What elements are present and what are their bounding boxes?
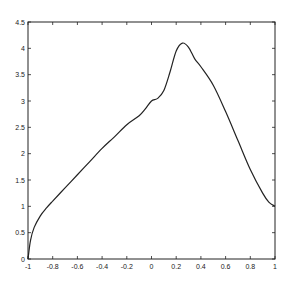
x-tick-label: -0.4 — [96, 263, 108, 270]
y-tick-label: 4.5 — [15, 19, 25, 26]
x-tick-label: -0.6 — [71, 263, 83, 270]
y-tick-label: 1.5 — [15, 177, 25, 184]
x-tick-label: 0.6 — [221, 263, 231, 270]
y-tick-label: 2 — [21, 150, 25, 157]
x-tick-label: 0.8 — [245, 263, 255, 270]
y-tick-label: 0 — [21, 256, 25, 263]
x-tick-label: 0 — [150, 263, 154, 270]
x-tick-label: 0.2 — [171, 263, 181, 270]
y-tick-label: 2.5 — [15, 124, 25, 131]
line-chart: -1-0.8-0.6-0.4-0.200.20.40.60.81 00.511.… — [0, 0, 291, 288]
y-tick-label: 3.5 — [15, 71, 25, 78]
x-axis-ticks: -1-0.8-0.6-0.4-0.200.20.40.60.81 — [25, 22, 277, 270]
data-line — [28, 43, 275, 259]
y-tick-label: 1 — [21, 203, 25, 210]
y-tick-label: 0.5 — [15, 229, 25, 236]
x-tick-label: 0.4 — [196, 263, 206, 270]
x-tick-label: -0.8 — [47, 263, 59, 270]
x-tick-label: 1 — [273, 263, 277, 270]
y-tick-label: 4 — [21, 45, 25, 52]
x-tick-label: -1 — [25, 263, 31, 270]
y-tick-label: 3 — [21, 98, 25, 105]
x-tick-label: -0.2 — [121, 263, 133, 270]
plot-area: -1-0.8-0.6-0.4-0.200.20.40.60.81 00.511.… — [15, 19, 277, 271]
y-axis-ticks: 00.511.522.533.544.5 — [15, 19, 275, 263]
